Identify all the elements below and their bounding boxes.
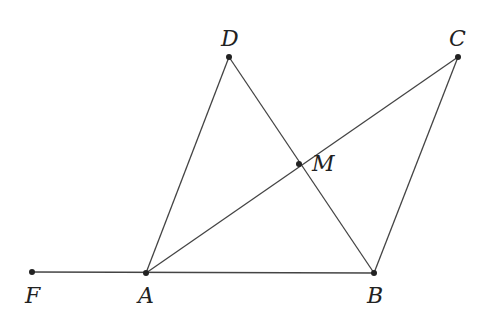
label-D: D: [221, 28, 239, 50]
label-A: A: [138, 285, 154, 307]
diagram-canvas: [0, 0, 493, 318]
label-F: F: [25, 285, 40, 307]
label-B: B: [367, 285, 383, 307]
point-D: [226, 54, 232, 60]
segment-AD: [146, 57, 229, 273]
point-F: [29, 269, 35, 275]
point-C: [455, 54, 461, 60]
segment-FB: [32, 272, 374, 273]
label-C: C: [449, 28, 466, 50]
label-M: M: [312, 153, 335, 175]
point-B: [371, 270, 377, 276]
geometry-diagram: DCMFAB: [0, 0, 493, 318]
point-A: [143, 270, 149, 276]
point-M: [296, 161, 302, 167]
segment-AC: [146, 57, 458, 273]
segment-CB: [374, 57, 458, 273]
